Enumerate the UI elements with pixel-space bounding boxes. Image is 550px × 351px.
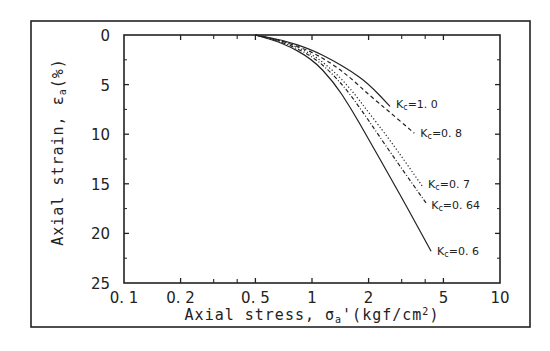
x-axis-ticks: 0. 10. 20. 512510	[110, 35, 510, 307]
curve-label: Kc=1. 0	[396, 98, 438, 112]
y-axis-title: Axial strain, εa(%)	[49, 58, 68, 246]
x-tick-label: 0. 5	[241, 289, 270, 307]
y-tick-label: 20	[91, 225, 110, 243]
x-axis-title: Axial stress, σa'(kgf/cm2)	[185, 306, 440, 325]
curve-kc-0-6	[255, 35, 431, 251]
curve-kc-0-64	[255, 35, 427, 205]
x-tick-label: 5	[439, 289, 449, 307]
x-tick-label: 10	[490, 289, 509, 307]
curve-label: Kc=0. 6	[437, 245, 479, 259]
y-tick-label: 10	[91, 126, 110, 144]
curve-label: Kc=0. 64	[431, 199, 480, 213]
y-tick-label: 5	[100, 77, 110, 95]
curve-label: Kc=0. 7	[428, 178, 470, 192]
x-tick-label: 0. 2	[166, 289, 195, 307]
x-tick-label: 1	[307, 289, 317, 307]
y-tick-label: 15	[91, 176, 110, 194]
y-tick-label: 0	[100, 27, 110, 45]
x-tick-label: 2	[364, 289, 374, 307]
chart: 0. 10. 20. 512510 0510152025 Kc=1. 0Kc=0…	[0, 0, 550, 351]
x-tick-label: 0. 1	[110, 289, 139, 307]
curves	[255, 35, 431, 251]
curve-label: Kc=0. 8	[420, 127, 462, 141]
y-tick-label: 25	[91, 275, 110, 293]
